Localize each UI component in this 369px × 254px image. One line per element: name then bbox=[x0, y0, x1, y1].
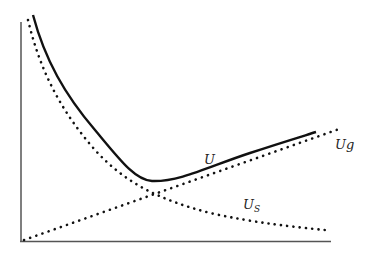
curve-ug bbox=[24, 128, 342, 240]
curve-us bbox=[28, 20, 325, 230]
label-us: US bbox=[243, 197, 260, 214]
label-ug: Ug bbox=[335, 137, 354, 152]
label-u: U bbox=[204, 152, 216, 167]
label-us-sub: S bbox=[254, 204, 260, 214]
cost-curve-diagram: U Ug US bbox=[0, 0, 369, 254]
curve-u bbox=[33, 15, 316, 181]
